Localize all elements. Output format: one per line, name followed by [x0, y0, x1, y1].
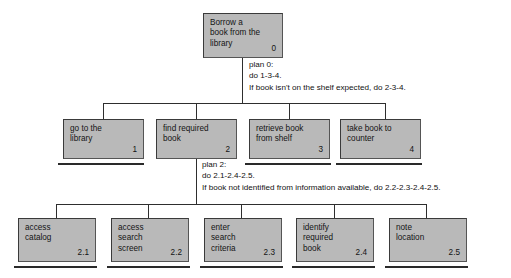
task-node-2-3[interactable]: enter search criteria 2.3	[204, 218, 282, 262]
task-node-2-4[interactable]: identify required book 2.4	[296, 218, 374, 262]
plan-0-text: plan 0: do 1-3-4. If book isn't on the s…	[249, 59, 499, 93]
connector-level1-drop-2	[196, 103, 197, 119]
task-node-2-5-number: 2.5	[449, 248, 460, 258]
connector-level2-drop-5	[426, 204, 427, 218]
task-node-2-label: find required book	[163, 124, 231, 145]
task-node-2-1-number: 2.1	[78, 248, 89, 258]
task-node-2-1[interactable]: access catalog 2.1	[18, 218, 96, 262]
connector-level2-drop-3	[241, 204, 242, 218]
connector-root-stem	[242, 58, 243, 103]
task-node-0[interactable]: Borrow a book from the library 0	[203, 13, 283, 58]
task-node-3[interactable]: retrieve book from shelf 3	[249, 119, 330, 159]
task-node-3-number: 3	[318, 145, 323, 155]
task-node-2-number: 2	[225, 145, 230, 155]
leaf-marker-2-1	[14, 266, 97, 268]
task-node-2-2[interactable]: access search screen 2.2	[111, 218, 189, 262]
task-node-0-number: 0	[271, 44, 276, 54]
task-node-2-4-number: 2.4	[356, 248, 367, 258]
hta-diagram: Borrow a book from the library 0 plan 0:…	[0, 0, 511, 278]
task-node-2-5-label: note location	[396, 223, 461, 244]
connector-level2-drop-4	[334, 204, 335, 218]
leaf-marker-2-3	[200, 266, 283, 268]
task-node-2-1-label: access catalog	[25, 223, 90, 244]
leaf-marker-1	[58, 163, 144, 165]
task-node-4-label: take book to counter	[347, 124, 415, 145]
task-node-2-2-number: 2.2	[171, 248, 182, 258]
connector-level1-drop-1	[103, 103, 104, 119]
plan-2-text: plan 2: do 2.1-2.4-2.5. If book not iden…	[202, 159, 511, 193]
task-node-3-label: retrieve book from shelf	[256, 124, 324, 145]
leaf-marker-2-4	[292, 266, 375, 268]
task-node-0-label: Borrow a book from the library	[210, 18, 277, 49]
task-node-2-3-number: 2.3	[264, 248, 275, 258]
connector-level2-drop-1	[56, 204, 57, 218]
connector-node2-stem	[196, 159, 197, 204]
task-node-2-5[interactable]: note location 2.5	[389, 218, 467, 262]
connector-level1-drop-4	[385, 103, 386, 119]
task-node-4-number: 4	[409, 145, 414, 155]
connector-level2-drop-2	[148, 204, 149, 218]
connector-level1-bus	[103, 103, 386, 104]
leaf-marker-2-2	[107, 266, 190, 268]
task-node-1-number: 1	[132, 145, 137, 155]
task-node-1-label: go to the library	[70, 124, 138, 145]
task-node-2[interactable]: find required book 2	[156, 119, 237, 159]
task-node-4[interactable]: take book to counter 4	[340, 119, 421, 159]
task-node-1[interactable]: go to the library 1	[63, 119, 144, 159]
connector-level1-drop-3	[289, 103, 290, 119]
leaf-marker-2-5	[385, 266, 468, 268]
